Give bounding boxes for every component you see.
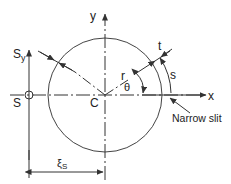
slit-pointer	[170, 98, 190, 113]
x-axis-label: x	[208, 89, 214, 103]
distance-label: ξS	[57, 157, 67, 171]
arc-length-label: s	[170, 68, 176, 82]
thickness-arrow-left-b	[59, 63, 72, 70]
shear-center-label: S	[13, 96, 21, 110]
shear-force-label: Sy	[13, 47, 26, 63]
slit-label: Narrow slit	[172, 112, 222, 124]
section-diagram: y x Sy S C r θ t s Narrow slit ξS	[0, 0, 231, 184]
radius-arrow	[135, 61, 155, 74]
thickness-arrow-right	[161, 49, 172, 57]
theta-arc	[136, 73, 143, 93]
y-axis-label: y	[90, 9, 96, 23]
thickness-arrow-left-a	[40, 52, 54, 60]
radius-line-upper-left	[75, 72, 105, 95]
diagram-canvas: y x Sy S C r θ t s Narrow slit ξS	[0, 0, 231, 184]
thickness-label: t	[158, 39, 162, 53]
centroid-label: C	[90, 96, 99, 110]
angle-label: θ	[124, 81, 130, 93]
